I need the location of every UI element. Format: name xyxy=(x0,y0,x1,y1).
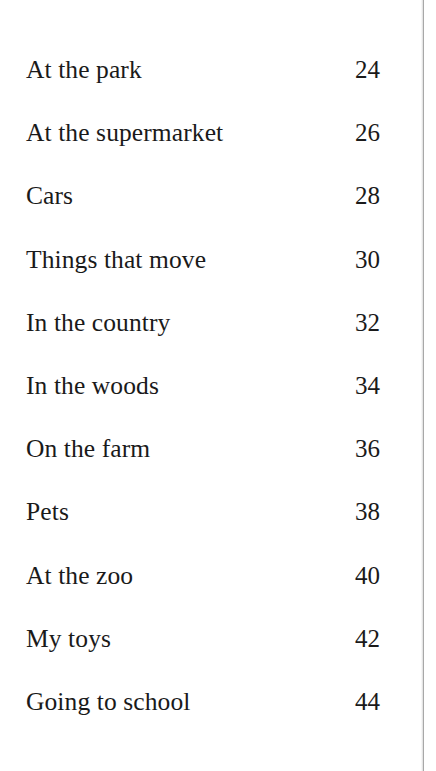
toc-entry-title: In the country xyxy=(26,301,170,345)
toc-entry-page-number: 24 xyxy=(355,48,380,92)
toc-entry[interactable]: Things that move30 xyxy=(0,238,436,282)
toc-entry-page-number: 26 xyxy=(355,111,380,155)
toc-entry-page-number: 40 xyxy=(355,554,380,598)
toc-entry-title: Going to school xyxy=(26,680,190,724)
toc-entry-page-number: 28 xyxy=(355,174,380,218)
toc-entry-title: Pets xyxy=(26,490,69,534)
toc-entry[interactable]: Cars28 xyxy=(0,174,436,218)
toc-entry-title: My toys xyxy=(26,617,111,661)
toc-entry[interactable]: At the supermarket26 xyxy=(0,111,436,155)
toc-entry-title: At the supermarket xyxy=(26,111,223,155)
toc-entry[interactable]: My toys42 xyxy=(0,617,436,661)
toc-entry-title: At the park xyxy=(26,48,142,92)
toc-entry-title: On the farm xyxy=(26,427,150,471)
toc-entry-title: Things that move xyxy=(26,238,206,282)
toc-entry-page-number: 44 xyxy=(355,680,380,724)
toc-entry[interactable]: At the zoo40 xyxy=(0,554,436,598)
toc-entry-page-number: 30 xyxy=(355,238,380,282)
toc-entry-title: In the woods xyxy=(26,364,159,408)
toc-entry[interactable]: Going to school44 xyxy=(0,680,436,724)
toc-entry[interactable]: Pets38 xyxy=(0,490,436,534)
toc-entry-page-number: 34 xyxy=(355,364,380,408)
toc-entry-page-number: 38 xyxy=(355,490,380,534)
toc-entry[interactable]: On the farm36 xyxy=(0,427,436,471)
toc-entry[interactable]: At the park24 xyxy=(0,48,436,92)
toc-page: At the park24At the supermarket26Cars28T… xyxy=(0,0,436,771)
toc-entry-page-number: 42 xyxy=(355,617,380,661)
toc-entry-page-number: 32 xyxy=(355,301,380,345)
toc-entry-title: At the zoo xyxy=(26,554,133,598)
toc-entry-page-number: 36 xyxy=(355,427,380,471)
toc-entry-title: Cars xyxy=(26,174,73,218)
toc-entry[interactable]: In the country32 xyxy=(0,301,436,345)
toc-entry[interactable]: In the woods34 xyxy=(0,364,436,408)
